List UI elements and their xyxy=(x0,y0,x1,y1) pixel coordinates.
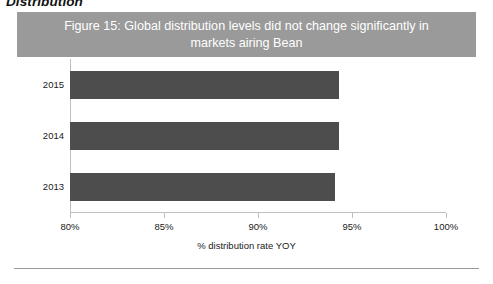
x-tick-mark-90% xyxy=(258,213,259,218)
x-tick-label-80%: 80% xyxy=(40,221,100,232)
figure-title: Figure 15: Global distribution levels di… xyxy=(41,18,452,52)
figure-title-bar: Figure 15: Global distribution levels di… xyxy=(17,12,476,57)
x-tick-label-85%: 85% xyxy=(134,221,194,232)
bar-2014 xyxy=(70,122,339,150)
x-tick-mark-100% xyxy=(446,213,447,218)
x-tick-label-90%: 90% xyxy=(228,221,288,232)
chart-plot-area: 201520142013 80%85%90%95%100% % distribu… xyxy=(0,57,493,257)
bar-2013 xyxy=(70,173,335,201)
x-tick-label-100%: 100% xyxy=(416,221,476,232)
y-axis-tick-labels: 201520142013 xyxy=(14,57,64,212)
figure-container: Figure 15: Global distribution levels di… xyxy=(0,0,493,284)
x-tick-label-95%: 95% xyxy=(322,221,382,232)
x-tick-mark-80% xyxy=(70,213,71,218)
bottom-divider xyxy=(14,268,479,269)
y-tick-label-2015: 2015 xyxy=(18,79,64,90)
x-tick-mark-95% xyxy=(352,213,353,218)
bar-2015 xyxy=(70,71,339,99)
y-tick-label-2013: 2013 xyxy=(18,181,64,192)
y-tick-label-2014: 2014 xyxy=(18,130,64,141)
x-axis-title: % distribution rate YOY xyxy=(0,240,493,251)
x-tick-mark-85% xyxy=(164,213,165,218)
